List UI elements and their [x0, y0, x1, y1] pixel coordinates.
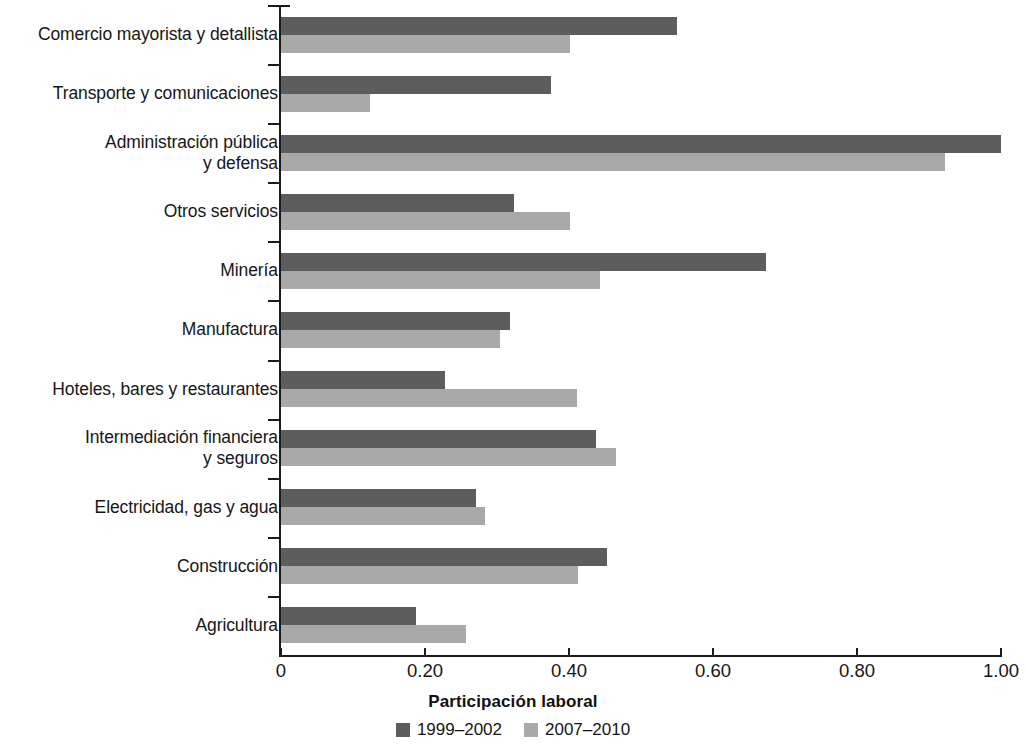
legend-label: 2007–2010: [545, 720, 630, 740]
x-axis-tick: [568, 648, 570, 657]
y-axis-tick: [268, 182, 279, 184]
bar-series-a: [281, 548, 607, 566]
bar-series-a: [281, 135, 1001, 153]
category-label: Comercio mayorista y detallista: [0, 24, 278, 45]
y-axis-tick: [268, 360, 279, 362]
x-axis-tick: [1000, 648, 1002, 657]
y-axis-tick: [268, 596, 279, 598]
y-axis-tick: [268, 478, 279, 480]
horizontal-bar-chart: Comercio mayorista y detallistaTransport…: [0, 0, 1026, 748]
bar-series-b: [281, 330, 500, 348]
y-axis-tick: [268, 537, 279, 539]
bar-group-row: Agricultura: [0, 596, 1026, 655]
bar-group-row: Intermediación financiera y seguros: [0, 419, 1026, 478]
category-label: Intermediación financiera y seguros: [0, 427, 278, 469]
category-label: Manufactura: [0, 319, 278, 340]
bar-series-a: [281, 194, 514, 212]
category-label: Transporte y comunicaciones: [0, 83, 278, 104]
bar-series-a: [281, 312, 510, 330]
bar-group-row: Electricidad, gas y agua: [0, 478, 1026, 537]
x-axis-tick: [712, 648, 714, 657]
bar-series-a: [281, 430, 596, 448]
category-label: Agricultura: [0, 615, 278, 636]
bar-series-b: [281, 212, 570, 230]
bar-series-b: [281, 507, 485, 525]
bar-series-a: [281, 371, 445, 389]
bar-series-b: [281, 153, 945, 171]
bar-group-row: Hoteles, bares y restaurantes: [0, 360, 1026, 419]
bar-series-a: [281, 253, 766, 271]
bar-series-a: [281, 489, 476, 507]
bar-series-a: [281, 17, 677, 35]
x-axis-line: [281, 655, 1002, 657]
x-axis-tick: [280, 648, 282, 657]
bar-group-row: Otros servicios: [0, 182, 1026, 241]
y-axis-tick: [268, 241, 279, 243]
legend-entry: 1999–2002: [396, 720, 502, 740]
category-label: Otros servicios: [0, 201, 278, 222]
bar-series-b: [281, 448, 616, 466]
bar-series-b: [281, 389, 577, 407]
bar-series-b: [281, 625, 466, 643]
x-axis-tick: [856, 648, 858, 657]
y-axis-tick: [268, 419, 279, 421]
x-axis-tick: [424, 648, 426, 657]
bar-group-row: Administración pública y defensa: [0, 123, 1026, 182]
bar-series-a: [281, 607, 416, 625]
chart-legend: 1999–20022007–2010: [0, 720, 1026, 740]
y-axis-tick: [268, 300, 279, 302]
x-axis-tick-label: 1.00: [983, 659, 1019, 683]
y-axis-tick: [268, 123, 279, 125]
x-axis-tick-label: 0: [276, 659, 286, 683]
category-label: Minería: [0, 260, 278, 281]
bar-series-a: [281, 76, 551, 94]
bar-group-row: Minería: [0, 241, 1026, 300]
bar-group-row: Comercio mayorista y detallista: [0, 5, 1026, 64]
category-label: Administración pública y defensa: [0, 132, 278, 174]
bar-series-b: [281, 566, 578, 584]
x-axis-tick-label: 0.40: [551, 659, 587, 683]
bar-group-row: Construcción: [0, 537, 1026, 596]
y-axis-tick: [268, 5, 279, 7]
x-axis-title: Participación laboral: [0, 692, 1026, 712]
bar-group-row: Transporte y comunicaciones: [0, 64, 1026, 123]
legend-swatch-icon: [396, 723, 410, 737]
legend-label: 1999–2002: [417, 720, 502, 740]
x-axis-tick-label: 0.20: [407, 659, 443, 683]
x-axis-tick-label: 0.80: [839, 659, 875, 683]
category-label: Electricidad, gas y agua: [0, 497, 278, 518]
category-label: Hoteles, bares y restaurantes: [0, 379, 278, 400]
bar-series-b: [281, 271, 600, 289]
y-axis-tick: [268, 64, 279, 66]
bar-series-b: [281, 94, 370, 112]
x-axis-tick-label: 0.60: [695, 659, 731, 683]
bar-series-b: [281, 35, 570, 53]
category-label: Construcción: [0, 556, 278, 577]
legend-swatch-icon: [524, 723, 538, 737]
legend-entry: 2007–2010: [524, 720, 630, 740]
bar-group-row: Manufactura: [0, 300, 1026, 359]
